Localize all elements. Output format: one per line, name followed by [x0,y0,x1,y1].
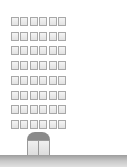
window-icon [58,120,66,129]
window-icon [58,32,66,41]
window-icon [49,61,57,70]
window-icon [39,76,47,85]
window-icon [58,61,66,70]
window-icon [30,120,38,129]
window-icon [20,46,28,55]
window-icon [49,76,57,85]
window-icon [30,105,38,114]
window-icon [20,105,28,114]
window-icon [39,17,47,26]
entrance [27,132,50,156]
ground [0,155,127,167]
window-icon [30,61,38,70]
window-icon [20,76,28,85]
window-grid [11,17,67,130]
window-icon [20,120,28,129]
window-icon [11,120,19,129]
window-icon [30,76,38,85]
entrance-dome [27,132,50,140]
window-icon [30,91,38,100]
window-icon [20,32,28,41]
window-icon [20,17,28,26]
window-icon [58,17,66,26]
window-icon [39,32,47,41]
window-icon [39,91,47,100]
window-icon [11,61,19,70]
window-icon [30,17,38,26]
window-icon [30,32,38,41]
window-icon [49,46,57,55]
window-icon [11,76,19,85]
window-icon [49,17,57,26]
window-icon [49,32,57,41]
window-icon [30,46,38,55]
window-icon [49,105,57,114]
window-icon [39,61,47,70]
window-icon [49,120,57,129]
window-icon [11,17,19,26]
window-icon [58,46,66,55]
window-icon [58,91,66,100]
window-icon [39,105,47,114]
window-icon [20,91,28,100]
window-icon [58,105,66,114]
window-icon [11,32,19,41]
window-icon [11,91,19,100]
window-icon [39,46,47,55]
window-icon [39,120,47,129]
window-icon [58,76,66,85]
window-icon [49,91,57,100]
window-icon [11,46,19,55]
window-icon [11,105,19,114]
window-icon [20,61,28,70]
